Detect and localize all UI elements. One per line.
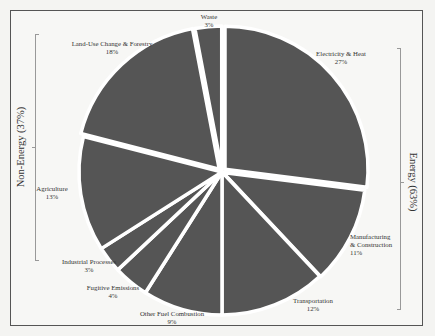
label-landuse: Land-Use Change & Forestry 18% <box>72 40 153 56</box>
label-manufacturing-pct: 11% <box>350 249 392 257</box>
label-electricity: Electricity & Heat 27% <box>316 50 366 66</box>
label-manufacturing-name-1: Manufacturing <box>350 233 392 241</box>
label-industrial: Industrial Processes 3% <box>62 258 116 274</box>
label-transportation-name: Transportation <box>293 297 333 305</box>
energy-bracket-tick <box>400 182 404 183</box>
label-fugitive-pct: 4% <box>87 292 139 300</box>
non-energy-group-label: Non-Energy (37%) <box>15 107 26 188</box>
label-manufacturing-name-2: & Construction <box>350 241 392 249</box>
label-industrial-pct: 3% <box>62 266 116 274</box>
label-industrial-name: Industrial Processes <box>62 258 116 266</box>
label-transportation: Transportation 12% <box>293 297 333 313</box>
label-landuse-name: Land-Use Change & Forestry <box>72 40 153 48</box>
label-waste: Waste 3% <box>201 13 217 29</box>
non-energy-bracket-tick <box>32 147 36 148</box>
label-other-fuel-pct: 9% <box>140 318 204 326</box>
label-transportation-pct: 12% <box>293 305 333 313</box>
label-other-fuel-name: Other Fuel Combustion <box>140 310 204 318</box>
label-electricity-name: Electricity & Heat <box>316 50 366 58</box>
label-waste-pct: 3% <box>201 21 217 29</box>
label-agriculture-pct: 13% <box>36 193 67 201</box>
energy-group-label: Energy (63%) <box>408 153 419 212</box>
label-waste-name: Waste <box>201 13 217 21</box>
label-fugitive-name: Fugitive Emissions <box>87 284 139 292</box>
label-manufacturing: Manufacturing & Construction 11% <box>350 233 392 257</box>
label-other-fuel: Other Fuel Combustion 9% <box>140 310 204 326</box>
pie-slices <box>79 26 368 315</box>
label-agriculture-name: Agriculture <box>36 185 67 193</box>
energy-bracket <box>397 48 401 310</box>
label-landuse-pct: 18% <box>72 48 153 56</box>
label-agriculture: Agriculture 13% <box>36 185 67 201</box>
label-electricity-pct: 27% <box>316 58 366 66</box>
pie-chart <box>0 0 435 336</box>
label-fugitive: Fugitive Emissions 4% <box>87 284 139 300</box>
